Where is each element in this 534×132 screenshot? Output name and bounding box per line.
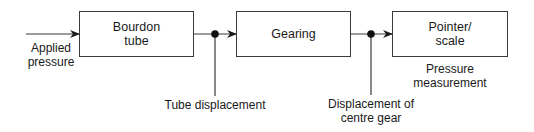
block-label: Pointer/ scale <box>428 20 471 48</box>
output-label: Pressure measurement <box>395 62 505 90</box>
block-gearing: Gearing <box>236 11 351 57</box>
block-diagram: Applied pressure Bourdon tube Gearing Po… <box>0 0 534 132</box>
signal-label-tube-displacement: Tube displacement <box>155 98 275 112</box>
block-bourdon-tube: Bourdon tube <box>79 11 194 57</box>
block-label: Gearing <box>271 27 315 41</box>
block-pointer-scale: Pointer/ scale <box>392 11 508 57</box>
block-label: Bourdon tube <box>113 20 160 48</box>
junction-node-icon <box>367 30 375 38</box>
input-label: Applied pressure <box>22 41 80 69</box>
junction-node-icon <box>211 30 219 38</box>
signal-label-centre-gear-displacement: Displacement of centre gear <box>321 97 421 125</box>
